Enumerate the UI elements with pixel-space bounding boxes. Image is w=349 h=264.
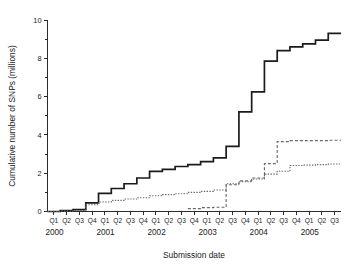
x-quarter-label: Q2 — [62, 217, 71, 225]
x-quarter-label: Q1 — [101, 217, 110, 225]
x-axis-quarter-labels: Q1Q2Q3Q4Q1Q2Q3Q4Q1Q2Q3Q4Q1Q2Q3Q4Q1Q2Q3Q4… — [49, 217, 339, 225]
y-tick-label: 6 — [37, 92, 41, 101]
x-year-label: 2004 — [250, 228, 269, 237]
x-quarter-label: Q1 — [49, 217, 58, 225]
x-quarter-label: Q2 — [317, 217, 326, 225]
x-quarter-label: Q3 — [228, 217, 237, 225]
x-quarter-label: Q3 — [279, 217, 288, 225]
x-year-label: 2003 — [199, 228, 218, 237]
x-quarter-label: Q1 — [254, 217, 263, 225]
x-quarter-label: Q1 — [152, 217, 161, 225]
y-tick-label: 0 — [37, 207, 41, 216]
snp-cumulative-line-chart: 0246810 Q1Q2Q3Q4Q1Q2Q3Q4Q1Q2Q3Q4Q1Q2Q3Q4… — [0, 0, 349, 264]
x-quarter-label: Q3 — [177, 217, 186, 225]
y-tick-label: 8 — [37, 54, 41, 63]
y-tick-label: 4 — [37, 131, 41, 140]
x-year-label: 2000 — [45, 228, 64, 237]
x-quarter-label: Q4 — [190, 217, 199, 225]
x-quarter-label: Q2 — [215, 217, 224, 225]
x-quarter-label: Q4 — [88, 217, 97, 225]
y-tick-label: 2 — [37, 169, 41, 178]
x-quarter-label: Q1 — [305, 217, 314, 225]
x-year-label: 2002 — [147, 228, 166, 237]
chart-figure: 0246810 Q1Q2Q3Q4Q1Q2Q3Q4Q1Q2Q3Q4Q1Q2Q3Q4… — [0, 0, 349, 264]
x-quarter-label: Q4 — [292, 217, 301, 225]
x-axis-title: Submission date — [163, 250, 225, 260]
chart-background — [0, 0, 349, 264]
x-quarter-label: Q3 — [126, 217, 135, 225]
x-quarter-label: Q3 — [330, 217, 339, 225]
x-quarter-label: Q2 — [164, 217, 173, 225]
x-quarter-label: Q2 — [266, 217, 275, 225]
x-quarter-label: Q3 — [75, 217, 84, 225]
y-tick-label: 10 — [33, 16, 41, 25]
x-year-label: 2001 — [96, 228, 115, 237]
x-quarter-label: Q1 — [203, 217, 212, 225]
x-quarter-label: Q2 — [113, 217, 122, 225]
x-year-label: 2005 — [301, 228, 320, 237]
x-quarter-label: Q4 — [139, 217, 148, 225]
y-axis-title: Cumulative number of SNPs (millions) — [7, 45, 17, 187]
x-quarter-label: Q4 — [241, 217, 250, 225]
